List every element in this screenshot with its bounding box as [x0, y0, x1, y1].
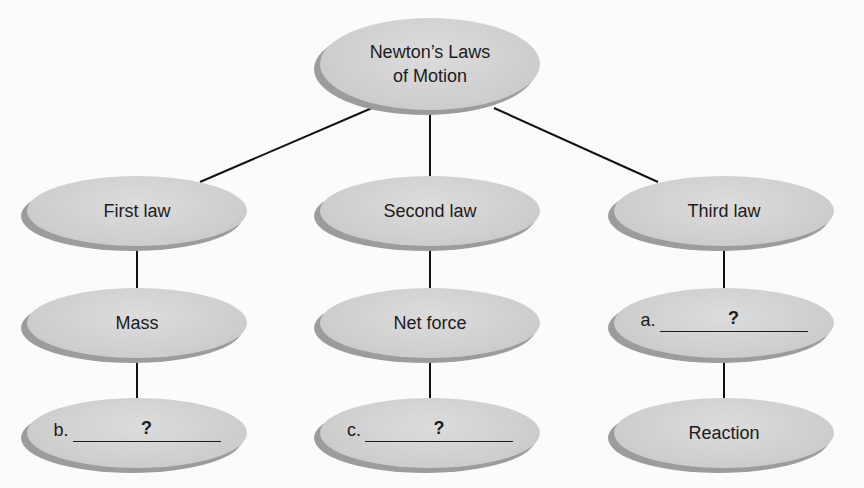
mass-label: Mass	[115, 311, 158, 335]
first-law-label: First law	[104, 199, 171, 223]
blank-c-prefix: c.	[347, 418, 361, 442]
connector-root-first	[200, 108, 372, 182]
reaction-node: Reaction	[614, 398, 834, 468]
connector-root-third	[494, 108, 658, 182]
net-force-label: Net force	[393, 311, 466, 335]
root-label-line2: of Motion	[370, 64, 491, 88]
first-law-node: First law	[27, 176, 247, 246]
second-law-label: Second law	[383, 199, 476, 223]
mass-node: Mass	[27, 288, 247, 358]
second-law-node: Second law	[320, 176, 540, 246]
blank-a-answer: ?	[660, 309, 808, 332]
blank-c-answer: ?	[365, 419, 513, 442]
root-node: Newton’s Laws of Motion	[320, 18, 540, 110]
root-label-line1: Newton’s Laws	[370, 40, 491, 64]
blank-a-prefix: a.	[640, 308, 655, 332]
blank-b-prefix: b.	[53, 418, 68, 442]
blank-b-answer: ?	[73, 419, 221, 442]
blank-a-node: a. ?	[614, 288, 834, 358]
net-force-node: Net force	[320, 288, 540, 358]
blank-b-node: b. ?	[27, 398, 247, 468]
reaction-label: Reaction	[688, 421, 759, 445]
third-law-node: Third law	[614, 176, 834, 246]
third-law-label: Third law	[687, 199, 760, 223]
blank-c-node: c. ?	[320, 398, 540, 468]
